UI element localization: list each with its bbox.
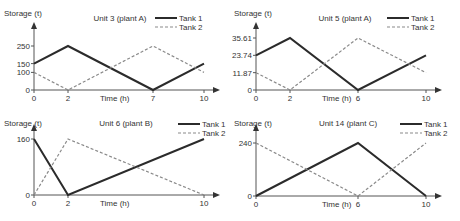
x-tick-label: 0 [254, 94, 259, 103]
series-tank2-line [34, 46, 204, 90]
series-tank1-line [34, 46, 204, 90]
y-tick-label: 35.61 [232, 34, 253, 43]
series-tank1-line [256, 38, 426, 90]
x-axis-label: Time (h) [322, 94, 352, 103]
chart-title: Unit 3 (plant A) [94, 14, 147, 23]
x-tick-label: 7 [151, 94, 156, 103]
y-tick-label: 23.74 [232, 51, 253, 60]
series-tank1-line [34, 139, 204, 195]
x-tick-label: 0 [32, 94, 37, 103]
x-tick-label: 10 [200, 199, 209, 208]
x-axis-label: Time (h) [322, 200, 352, 209]
chart-title: Unit 14 (plant C) [319, 119, 378, 128]
legend-tank1-label: Tank 1 [179, 14, 203, 23]
x-tick-label: 0 [32, 199, 37, 208]
x-tick-label: 6 [356, 200, 361, 209]
y-tick-label: 11.87 [233, 69, 253, 78]
x-tick-label: 2 [66, 94, 71, 103]
storage-charts: Storage (t)Unit 3 (plant A)Tank 1Tank 20… [0, 0, 460, 221]
x-tick-label: 2 [66, 199, 71, 208]
chart-panel-3: Storage (t)Unit 6 (plant B)Tank 1Tank 20… [4, 119, 226, 208]
legend-tank1-label: Tank 1 [202, 120, 226, 129]
y-axis-arrow-icon [31, 22, 37, 29]
x-axis-label: Time (h) [100, 94, 130, 103]
x-tick-label: 10 [200, 94, 209, 103]
chart-title: Unit 6 (plant B) [99, 119, 153, 128]
series-tank1-line [256, 143, 426, 196]
y-tick-label: 150 [17, 60, 31, 69]
y-axis-arrow-icon [253, 22, 259, 29]
legend-tank1-label: Tank 1 [424, 120, 448, 129]
x-tick-label: 0 [254, 200, 259, 209]
legend-tank2-label: Tank 2 [179, 23, 203, 32]
chart-panel-4: Storage (t)Unit 14 (plant C)Tank 1Tank 2… [234, 119, 448, 209]
x-axis-arrow-icon [435, 87, 442, 93]
x-axis-label: Time (h) [100, 199, 130, 208]
y-tick-label: 0 [248, 86, 253, 95]
y-tick-label: 0 [248, 192, 253, 201]
x-axis-arrow-icon [435, 193, 442, 199]
y-axis-label: Storage (t) [4, 9, 42, 18]
x-tick-label: 2 [288, 94, 293, 103]
y-tick-label: 0 [26, 191, 31, 200]
y-tick-label: 100 [17, 68, 31, 77]
y-tick-label: 0 [26, 86, 31, 95]
x-tick-label: 6 [356, 94, 361, 103]
x-axis-arrow-icon [213, 87, 220, 93]
chart-panel-1: Storage (t)Unit 3 (plant A)Tank 1Tank 20… [4, 9, 220, 103]
y-axis-label: Storage (t) [234, 9, 272, 18]
chart-title: Unit 5 (plant A) [319, 14, 372, 23]
legend-tank2-label: Tank 2 [411, 23, 435, 32]
legend-tank2-label: Tank 2 [424, 129, 448, 138]
chart-panel-2: Storage (t)Unit 5 (plant A)Tank 1Tank 20… [232, 9, 442, 103]
legend-tank1-label: Tank 1 [411, 14, 435, 23]
x-tick-label: 10 [422, 200, 431, 209]
series-tank2-line [34, 139, 204, 195]
y-axis-label: Storage (t) [234, 119, 272, 128]
y-tick-label: 240 [239, 139, 253, 148]
y-axis-label: Storage (t) [4, 119, 42, 128]
y-tick-label: 250 [17, 42, 31, 51]
series-tank2-line [256, 38, 426, 90]
x-axis-arrow-icon [213, 192, 220, 198]
y-tick-label: 160 [17, 135, 31, 144]
x-tick-label: 10 [422, 94, 431, 103]
legend-tank2-label: Tank 2 [202, 129, 226, 138]
